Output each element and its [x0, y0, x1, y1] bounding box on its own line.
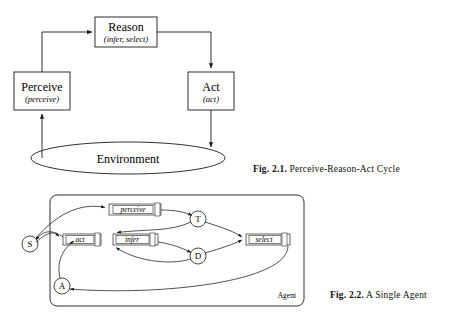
node-perceive-subtitle: (perceive) [25, 94, 59, 104]
node-s: S [22, 236, 38, 252]
figure-page: Reason (infer, select) Perceive (perceiv… [0, 0, 474, 320]
node-t-label: T [195, 214, 201, 224]
module-select-label: select [255, 235, 273, 244]
edge-s-to-perceive [36, 206, 105, 238]
node-s-label: S [27, 239, 32, 249]
node-reason: Reason (infer, select) [95, 17, 157, 47]
edge-perceive-to-reason [42, 32, 92, 72]
module-act-label: act [75, 235, 85, 244]
edge-perceive-to-t [161, 210, 192, 216]
edge-select-to-a [70, 246, 288, 291]
agent-container: Agent [50, 195, 304, 306]
figure-single-agent: Agent perceive act infer sel [0, 190, 340, 320]
node-reason-title: Reason [108, 20, 143, 34]
figure1-caption-text: Perceive-Reason-Act Cycle [290, 164, 400, 174]
edge-a-to-act [59, 241, 74, 278]
node-act: Act (act) [188, 72, 234, 110]
node-perceive: Perceive (perceive) [14, 72, 70, 110]
edge-t-to-select [205, 222, 242, 237]
module-select: select [246, 233, 290, 246]
edge-d-to-select [205, 240, 242, 253]
node-act-title: Act [202, 80, 220, 94]
edge-reason-to-act [157, 32, 211, 68]
module-infer: infer [113, 233, 158, 246]
edge-t-to-infer [117, 222, 191, 233]
figure2-caption-text: A Single Agent [366, 290, 427, 300]
figure2-caption: Fig. 2.2. A Single Agent [330, 290, 427, 300]
figure-perceive-reason-act-cycle: Reason (infer, select) Perceive (perceiv… [0, 0, 250, 185]
node-perceive-title: Perceive [21, 80, 62, 94]
node-environment: Environment [31, 142, 225, 174]
figure2-caption-number: Fig. 2.2. [330, 290, 364, 300]
node-a: A [54, 278, 70, 294]
edge-infer-to-d [158, 242, 191, 253]
module-act: act [63, 233, 101, 246]
edge-d-to-infer [116, 248, 191, 262]
agent-container-label: Agent [278, 291, 297, 300]
figure1-caption: Fig. 2.1. Perceive-Reason-Act Cycle [253, 164, 400, 174]
module-perceive: perceive [109, 203, 161, 216]
node-t: T [190, 211, 206, 227]
module-infer-label: infer [125, 235, 139, 244]
node-reason-subtitle: (infer, select) [104, 34, 149, 44]
module-perceive-label: perceive [119, 205, 146, 214]
node-act-subtitle: (act) [203, 94, 219, 104]
node-d-label: D [195, 251, 202, 261]
figure1-caption-number: Fig. 2.1. [253, 164, 287, 174]
node-environment-title: Environment [97, 152, 160, 166]
node-a-label: A [59, 281, 66, 291]
node-d: D [190, 248, 206, 264]
